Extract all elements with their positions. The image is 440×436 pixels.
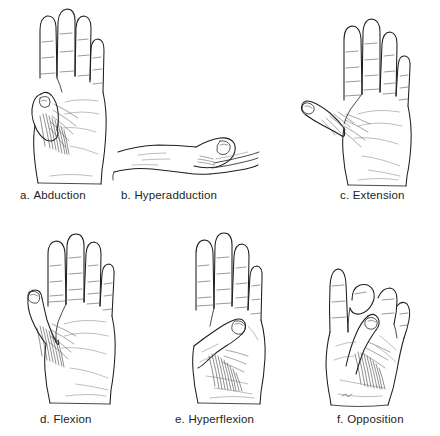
- caption-letter: d.: [40, 413, 50, 425]
- caption-letter: e.: [175, 413, 185, 425]
- figure-root: a.Abduction: [0, 0, 440, 436]
- hand-hyperflexion-icon: [166, 228, 278, 408]
- caption-hyperflexion: e.Hyperflexion: [175, 414, 254, 426]
- caption-name: Flexion: [53, 413, 91, 425]
- caption-letter: c.: [340, 189, 349, 201]
- caption-flexion: d.Flexion: [40, 414, 92, 426]
- caption-opposition: f.Opposition: [337, 414, 404, 426]
- caption-extension: c.Extension: [340, 190, 405, 202]
- caption-name: Hyperflexion: [188, 413, 254, 425]
- caption-letter: f.: [337, 413, 344, 425]
- panel-opposition: f.Opposition: [0, 0, 130, 218]
- caption-name: Extension: [353, 189, 405, 201]
- hand-flexion-icon: [14, 228, 124, 408]
- caption-name: Hyperadduction: [134, 189, 217, 201]
- hand-opposition-icon: [312, 228, 422, 408]
- caption-name: Opposition: [347, 413, 403, 425]
- hand-extension-icon: [300, 10, 432, 190]
